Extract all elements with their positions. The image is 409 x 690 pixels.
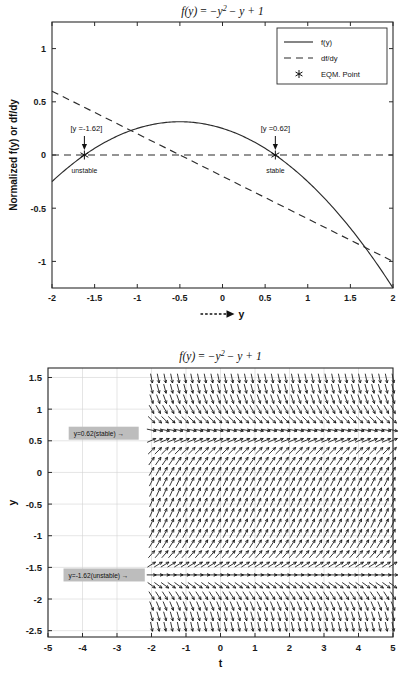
- field-arrow: [329, 416, 336, 423]
- field-arrow: [309, 447, 316, 454]
- y-tick-label: 1.5: [29, 372, 43, 383]
- field-arrow-head: [394, 380, 395, 383]
- field-arrow: [182, 447, 189, 454]
- direction-field-svg: f(y)=−y2− y + 1-5-4-3-2-10123451.510.50-…: [0, 345, 409, 690]
- field-arrow-head: [186, 390, 187, 393]
- field-arrow: [349, 416, 356, 423]
- field-arrow: [155, 551, 161, 558]
- field-arrow: [175, 447, 182, 454]
- field-arrow-head: [240, 380, 241, 383]
- field-arrow: [209, 447, 216, 454]
- field-arrow-head: [361, 390, 362, 393]
- x-tick-label: -1: [182, 642, 191, 653]
- field-arrow-head: [321, 618, 322, 621]
- field-arrow: [283, 551, 289, 558]
- field-arrow: [363, 416, 370, 423]
- y-tick-label: -1.5: [26, 562, 43, 573]
- field-arrow: [282, 447, 289, 454]
- field-arrow-head: [247, 390, 248, 393]
- field-arrow-head: [354, 390, 355, 393]
- field-arrow: [168, 447, 175, 454]
- stability-label: unstable: [72, 167, 98, 174]
- field-arrow: [269, 551, 275, 558]
- field-arrow: [222, 447, 229, 454]
- x-tick-label: -5: [44, 642, 53, 653]
- field-arrow: [376, 551, 382, 558]
- field-arrow-head: [341, 618, 342, 621]
- field-arrow-head: [227, 390, 228, 393]
- field-arrow: [262, 447, 269, 454]
- y-tick-label: 1: [37, 404, 43, 415]
- field-arrow: [343, 551, 349, 558]
- field-arrow-head: [300, 618, 301, 621]
- field-arrow: [323, 416, 330, 423]
- field-arrow-head: [361, 618, 362, 621]
- field-arrow-head: [247, 618, 248, 621]
- field-arrow: [155, 447, 162, 454]
- field-arrow-head: [180, 618, 181, 621]
- field-arrow-head: [354, 380, 355, 383]
- field-arrow-head: [367, 390, 368, 393]
- field-arrow: [282, 416, 289, 423]
- field-arrow-head: [153, 390, 154, 393]
- field-arrow-head: [334, 380, 335, 383]
- field-arrow: [363, 551, 369, 558]
- field-arrow: [242, 551, 248, 558]
- field-arrow-head: [320, 380, 321, 383]
- field-arrow-head: [300, 390, 301, 393]
- x-tick-label: 3: [321, 642, 326, 653]
- equilibrium-point-unstable: [y =-1.62]unstable: [70, 124, 102, 174]
- field-arrow: [289, 447, 296, 454]
- field-arrow-head: [206, 380, 207, 383]
- x-tick-label: 1.5: [344, 293, 357, 303]
- field-arrow: [343, 447, 350, 454]
- y-tick-label: 1: [41, 44, 46, 54]
- field-arrow-head: [334, 618, 335, 621]
- field-arrow-head: [160, 618, 161, 621]
- field-arrow: [249, 416, 256, 423]
- field-arrow: [229, 447, 236, 454]
- field-arrow-head: [173, 618, 174, 621]
- field-arrow-head: [394, 618, 395, 621]
- field-arrow-head: [240, 390, 241, 393]
- field-arrow-head: [293, 380, 294, 383]
- field-arrow: [235, 447, 242, 454]
- field-arrow: [235, 416, 242, 423]
- x-axis-label: y: [201, 308, 245, 320]
- x-tick-label: 2: [287, 642, 292, 653]
- field-annotation: y=0.62(stable) →: [69, 427, 139, 440]
- direction-field-figure: f(y)=−y2− y + 1-5-4-3-2-10123451.510.50-…: [0, 345, 409, 690]
- field-arrow-head: [166, 618, 167, 621]
- y-tick-label: -2: [34, 594, 42, 605]
- field-arrow-head: [220, 618, 221, 621]
- field-arrow-head: [307, 380, 308, 383]
- field-arrow: [336, 551, 342, 558]
- field-arrow-head: [340, 380, 341, 383]
- field-arrow-head: [347, 390, 348, 393]
- field-arrow-head: [313, 380, 314, 383]
- x-tick-label: 0.5: [259, 293, 272, 303]
- field-arrow-head: [327, 380, 328, 383]
- field-arrow: [236, 551, 242, 558]
- field-arrow: [289, 416, 296, 423]
- field-arrow: [330, 551, 336, 558]
- field-arrow-head: [300, 380, 301, 383]
- field-arrow: [182, 551, 188, 558]
- field-arrow: [249, 447, 256, 454]
- asterisk-marker-ray: [84, 155, 88, 157]
- field-arrow: [356, 447, 363, 454]
- field-arrow-head: [253, 390, 254, 393]
- field-arrow-head: [280, 618, 281, 621]
- field-arrow: [349, 447, 356, 454]
- field-arrow-head: [179, 380, 180, 383]
- y-tick-label: -2.5: [26, 625, 43, 636]
- field-arrow-head: [246, 380, 247, 383]
- field-arrow: [363, 447, 370, 454]
- field-arrow: [316, 551, 322, 558]
- field-arrow: [202, 551, 208, 558]
- phase-line-figure: f(y)=−y2− y + 1-2-1.5-1-0.500.511.5210.5…: [0, 0, 409, 345]
- x-tick-label: 1: [305, 293, 310, 303]
- x-tick-label: -4: [78, 642, 87, 653]
- field-arrow: [215, 416, 222, 423]
- legend[interactable]: f(y)df/dyEQM. Point: [277, 28, 387, 84]
